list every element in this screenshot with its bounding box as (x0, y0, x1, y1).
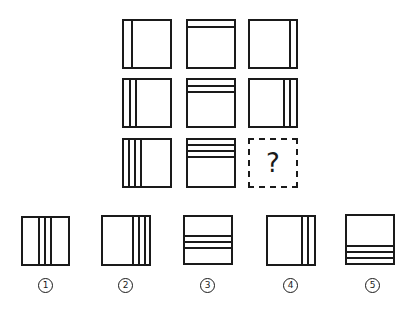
line (188, 91, 234, 93)
grid-cell-r2c2 (186, 78, 236, 128)
option-4[interactable] (266, 215, 316, 266)
line (129, 80, 131, 126)
line (38, 218, 40, 264)
line (134, 140, 136, 186)
grid-cell-r1c3 (248, 19, 298, 69)
line (289, 80, 291, 126)
line (144, 217, 146, 264)
line (289, 21, 291, 67)
line (185, 235, 231, 237)
line (301, 217, 303, 264)
line (188, 156, 234, 158)
line (44, 218, 46, 264)
line (188, 85, 234, 87)
line (132, 217, 134, 264)
line (185, 241, 231, 243)
missing-cell: ? (248, 138, 298, 188)
grid-cell-r1c1 (122, 19, 172, 69)
line (347, 251, 393, 253)
line (188, 144, 234, 146)
option-5-label: 5 (365, 278, 380, 293)
option-5[interactable] (345, 214, 395, 265)
line (188, 150, 234, 152)
line (140, 140, 142, 186)
line (50, 218, 52, 264)
option-1-label: 1 (38, 278, 53, 293)
grid-cell-r2c3 (248, 78, 298, 128)
line (138, 217, 140, 264)
option-2-label: 2 (118, 278, 133, 293)
line (135, 80, 137, 126)
option-2[interactable] (101, 215, 151, 266)
grid-cell-r3c1 (122, 138, 172, 188)
grid-cell-r2c1 (122, 78, 172, 128)
grid-cell-r3c2 (186, 138, 236, 188)
line (307, 217, 309, 264)
option-3-label: 3 (200, 278, 215, 293)
line (188, 26, 234, 28)
line (347, 257, 393, 259)
line (283, 80, 285, 126)
option-1[interactable] (21, 216, 70, 266)
question-mark: ? (250, 150, 296, 176)
line (131, 21, 133, 67)
option-3[interactable] (183, 215, 233, 265)
line (347, 245, 393, 247)
grid-cell-r1c2 (186, 19, 236, 69)
line (185, 247, 231, 249)
option-4-label: 4 (283, 278, 298, 293)
line (128, 140, 130, 186)
